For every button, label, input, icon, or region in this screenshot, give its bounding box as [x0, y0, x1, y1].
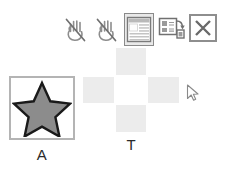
grid-cell[interactable] [148, 77, 179, 104]
star-icon [12, 79, 72, 137]
grid-cell[interactable] [116, 105, 147, 132]
grid-cell[interactable] [116, 48, 147, 75]
no-hand-icon-button[interactable] [62, 13, 92, 46]
grid-cell[interactable] [83, 105, 114, 132]
source-shape-panel[interactable] [9, 76, 75, 140]
list-window-icon [125, 14, 153, 45]
no-hand-icon [62, 13, 92, 46]
close-icon [191, 16, 215, 40]
copy-to-icon-button[interactable] [157, 13, 187, 46]
no-hand-icon-2 [93, 13, 123, 46]
grid-cell[interactable] [148, 105, 179, 132]
close-button[interactable] [189, 14, 217, 42]
grid-cell[interactable] [83, 48, 114, 75]
list-window-icon-button[interactable] [124, 13, 154, 46]
grid-cell[interactable] [83, 77, 114, 104]
source-panel-label: A [9, 146, 75, 163]
mouse-pointer-icon [186, 84, 200, 106]
target-grid[interactable] [83, 48, 179, 132]
toolbar [62, 13, 222, 49]
copy-to-icon [157, 13, 187, 46]
target-grid-label: T [83, 136, 179, 153]
grid-cell[interactable] [148, 48, 179, 75]
no-hand-icon-button-2[interactable] [93, 13, 123, 46]
grid-cell[interactable] [116, 77, 147, 104]
